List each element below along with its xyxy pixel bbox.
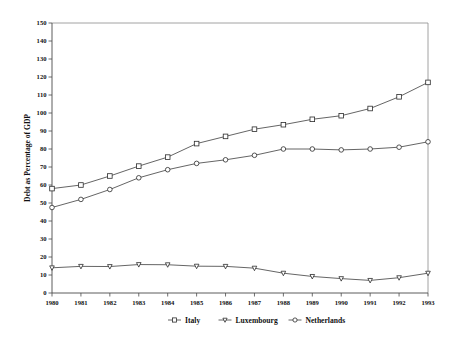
- data-point-marker: [223, 134, 228, 139]
- x-tick-label: 1988: [277, 299, 291, 306]
- y-tick-label: 40: [40, 217, 47, 224]
- legend-marker-square: [172, 318, 176, 322]
- data-point-marker: [79, 197, 84, 202]
- legend-marker-circle: [293, 318, 297, 322]
- chart-legend: ItalyLuxembourgNetherlands: [168, 316, 345, 325]
- legend-label-text: Netherlands: [306, 316, 346, 325]
- x-tick-label: 1984: [161, 299, 175, 306]
- x-tick-label: 1981: [74, 299, 87, 306]
- data-point-marker: [50, 205, 55, 210]
- data-point-marker: [165, 167, 170, 172]
- data-point-marker: [397, 145, 402, 150]
- data-point-marker: [339, 148, 344, 153]
- data-point-marker: [108, 187, 113, 192]
- data-point-marker: [79, 183, 84, 188]
- data-point-marker: [339, 113, 344, 118]
- data-point-marker: [281, 147, 286, 152]
- x-tick-label: 1982: [103, 299, 117, 306]
- y-tick-label: 10: [40, 271, 47, 278]
- y-tick-label: 110: [37, 91, 47, 98]
- data-point-marker: [397, 95, 402, 100]
- y-axis-title: Debt as Percentage of GDP: [23, 114, 32, 202]
- y-tick-label: 100: [37, 109, 48, 116]
- x-tick-label: 1990: [335, 299, 349, 306]
- line-chart-svg: 0102030405060708090100110120130140150 19…: [0, 0, 454, 338]
- data-point-marker: [368, 106, 373, 111]
- y-tick-label: 90: [40, 127, 47, 134]
- y-tick-label: 50: [40, 199, 47, 206]
- x-tick-label: 1991: [364, 299, 377, 306]
- data-point-marker: [136, 176, 141, 181]
- x-tick-label: 1989: [306, 299, 320, 306]
- data-point-marker: [194, 141, 199, 146]
- y-tick-label: 70: [40, 163, 47, 170]
- y-axis-title-text: Debt as Percentage of GDP: [23, 114, 32, 202]
- data-point-marker: [136, 164, 141, 169]
- legend-label-text: Luxembourg: [236, 316, 278, 325]
- x-tick-label: 1983: [132, 299, 146, 306]
- figure-background: [0, 0, 454, 338]
- y-tick-label: 60: [40, 181, 47, 188]
- x-tick-label: 1985: [190, 299, 204, 306]
- x-tick-label: 1980: [45, 299, 59, 306]
- data-point-marker: [252, 127, 257, 132]
- data-point-marker: [252, 153, 257, 158]
- data-point-marker: [426, 140, 431, 145]
- data-point-marker: [50, 186, 55, 191]
- data-point-marker: [108, 174, 113, 179]
- data-point-marker: [368, 147, 373, 152]
- data-point-marker: [165, 155, 170, 160]
- y-tick-label: 80: [40, 145, 47, 152]
- data-point-marker: [310, 117, 315, 122]
- x-tick-label: 1993: [421, 299, 435, 306]
- chart-figure: 0102030405060708090100110120130140150 19…: [0, 0, 454, 338]
- y-tick-label: 150: [37, 19, 48, 26]
- y-tick-label: 30: [40, 235, 47, 242]
- y-tick-label: 120: [37, 73, 48, 80]
- data-point-marker: [426, 80, 431, 85]
- x-tick-label: 1987: [248, 299, 262, 306]
- data-point-marker: [281, 122, 286, 127]
- y-tick-label: 130: [37, 55, 48, 62]
- y-tick-label: 140: [37, 37, 48, 44]
- legend-label-text: Italy: [185, 316, 200, 325]
- y-tick-label: 20: [40, 253, 47, 260]
- data-point-marker: [223, 158, 228, 163]
- data-point-marker: [194, 161, 199, 166]
- data-point-marker: [310, 147, 315, 152]
- x-tick-label: 1992: [392, 299, 406, 306]
- x-tick-label: 1986: [219, 299, 233, 306]
